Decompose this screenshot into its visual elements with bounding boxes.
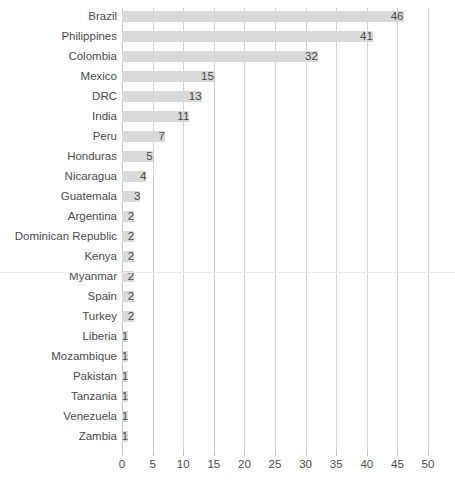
bar-value-label: 2 — [108, 306, 137, 326]
bar-row: Liberia1 — [0, 326, 455, 346]
bar-chart: Brazil46Philippines41Colombia32Mexico15D… — [0, 0, 455, 483]
x-tick-mark — [367, 452, 368, 456]
bar-value-label: 3 — [114, 186, 143, 206]
bar-value-label: 1 — [102, 386, 131, 406]
bar-value-label: 4 — [120, 166, 149, 186]
bar-value-label: 1 — [102, 366, 131, 386]
bar-value-label: 1 — [102, 406, 131, 426]
bar-row: Kenya2 — [0, 246, 455, 266]
x-tick-mark — [275, 452, 276, 456]
category-label: Guatemala — [61, 186, 117, 206]
bar-row: Turkey2 — [0, 306, 455, 326]
bar-container — [122, 46, 318, 66]
category-label: India — [92, 106, 117, 126]
page-divider-line — [0, 272, 455, 273]
bar-row: Philippines41 — [0, 26, 455, 46]
bar-value-label: 5 — [127, 146, 156, 166]
bar-value-label: 41 — [347, 26, 376, 46]
bar-value-label: 11 — [163, 106, 192, 126]
bar-row: Spain2 — [0, 286, 455, 306]
bar-row: Myanmar2 — [0, 266, 455, 286]
bar-row: Guatemala3 — [0, 186, 455, 206]
category-label: Dominican Republic — [15, 226, 117, 246]
bar-value-label: 13 — [176, 86, 205, 106]
category-label: DRC — [92, 86, 117, 106]
bar-row: Brazil46 — [0, 6, 455, 26]
x-tick-mark — [183, 452, 184, 456]
x-tick-mark — [153, 452, 154, 456]
category-label: Philippines — [61, 26, 117, 46]
bar-value-label: 32 — [292, 46, 321, 66]
x-tick-label: 50 — [408, 458, 448, 470]
category-label: Colombia — [68, 46, 117, 66]
bar-value-label: 1 — [102, 326, 131, 346]
bar-row: Honduras5 — [0, 146, 455, 166]
x-tick-mark — [306, 452, 307, 456]
x-tick-mark — [244, 452, 245, 456]
bar-container — [122, 6, 404, 26]
x-axis: 05101520253035404550 — [0, 452, 455, 483]
bar-value-label: 2 — [108, 206, 137, 226]
bar — [122, 31, 373, 42]
bar-value-label: 46 — [378, 6, 407, 26]
bar-row: Zambia1 — [0, 426, 455, 446]
bar-row: DRC13 — [0, 86, 455, 106]
bar-rows: Brazil46Philippines41Colombia32Mexico15D… — [0, 6, 455, 454]
category-label: Brazil — [88, 6, 117, 26]
bar-value-label: 2 — [108, 286, 137, 306]
bar-value-label: 7 — [139, 126, 168, 146]
bar-row: Nicaragua4 — [0, 166, 455, 186]
x-tick-mark — [397, 452, 398, 456]
bar-value-label: 2 — [108, 266, 137, 286]
bar-value-label: 1 — [102, 426, 131, 446]
bar — [122, 11, 404, 22]
bar-row: Argentina2 — [0, 206, 455, 226]
bar-row: Dominican Republic2 — [0, 226, 455, 246]
category-label: Mexico — [81, 66, 117, 86]
bar — [122, 51, 318, 62]
bar-value-label: 2 — [108, 226, 137, 246]
bar-container — [122, 26, 373, 46]
category-label: Honduras — [67, 146, 117, 166]
bar-row: Pakistan1 — [0, 366, 455, 386]
bar-row: Venezuela1 — [0, 406, 455, 426]
bar-row: India11 — [0, 106, 455, 126]
x-tick-mark — [336, 452, 337, 456]
bar-row: Peru7 — [0, 126, 455, 146]
bar-row: Tanzania1 — [0, 386, 455, 406]
x-tick-mark — [428, 452, 429, 456]
bar-row: Mozambique1 — [0, 346, 455, 366]
category-label: Nicaragua — [65, 166, 117, 186]
bar-value-label: 2 — [108, 246, 137, 266]
x-tick-mark — [214, 452, 215, 456]
bar-value-label: 1 — [102, 346, 131, 366]
bar-row: Colombia32 — [0, 46, 455, 66]
category-label: Peru — [93, 126, 117, 146]
bar-row: Mexico15 — [0, 66, 455, 86]
bar-value-label: 15 — [188, 66, 217, 86]
x-tick-mark — [122, 452, 123, 456]
